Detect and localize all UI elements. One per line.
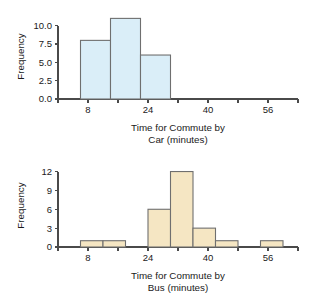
- bar-36-42: [193, 228, 216, 247]
- bar-24-30: [148, 209, 171, 247]
- y-tick-label: 7.5: [39, 38, 52, 49]
- x-tick-label: 56: [263, 104, 274, 115]
- x-tick-label: 24: [143, 252, 154, 263]
- y-axis-label: Frequency: [15, 33, 26, 79]
- x-tick-label: 8: [85, 104, 90, 115]
- x-tick-label: 56: [263, 252, 274, 263]
- y-axis-label: Frequency: [15, 182, 26, 228]
- x-axis-title-line1: Time for Commute by: [131, 270, 225, 281]
- bar-6-12: [81, 241, 104, 247]
- bar-42-48: [216, 241, 239, 247]
- bar-6-14: [81, 40, 111, 99]
- x-tick-label: 8: [85, 252, 90, 263]
- y-tick-label: 5.0: [39, 57, 52, 68]
- chart-commute-car: Frequency0.02.55.07.510.08244056Time for…: [0, 0, 310, 152]
- y-tick-label: 12: [41, 166, 52, 177]
- y-tick-label: 3: [47, 223, 52, 234]
- commute-bus-plot: Frequency0369128244056Time for Commute b…: [0, 152, 310, 306]
- commute-car-plot: Frequency0.02.55.07.510.08244056Time for…: [0, 0, 310, 152]
- y-tick-label: 9: [47, 185, 52, 196]
- x-tick-label: 40: [203, 252, 214, 263]
- x-axis-title-line1: Time for Commute by: [131, 122, 225, 133]
- bar-14-22: [111, 18, 141, 99]
- histogram-figure-page: Frequency0.02.55.07.510.08244056Time for…: [0, 0, 310, 306]
- chart-commute-bus: Frequency0369128244056Time for Commute b…: [0, 152, 310, 306]
- y-tick-label: 6: [47, 204, 52, 215]
- x-axis-title-line2: Bus (minutes): [148, 282, 208, 293]
- bar-30-36: [171, 172, 194, 247]
- x-tick-label: 40: [203, 104, 214, 115]
- y-tick-label: 2.5: [39, 75, 52, 86]
- x-axis-title-line2: Car (minutes): [148, 134, 207, 145]
- y-tick-label: 0: [47, 241, 52, 252]
- y-tick-label: 0.0: [39, 93, 52, 104]
- bar-12-18: [103, 241, 126, 247]
- y-tick-label: 10.0: [34, 20, 53, 31]
- bar-54-60: [261, 241, 284, 247]
- bar-22-30: [141, 55, 171, 99]
- x-tick-label: 24: [143, 104, 154, 115]
